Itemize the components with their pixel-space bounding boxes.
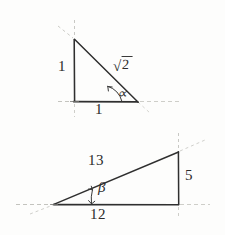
label-513-angle-beta: β xyxy=(98,179,105,196)
hypotenuse-extension-upper xyxy=(138,102,150,113)
label-513-hypotenuse: 13 xyxy=(88,152,104,169)
construction-line-diagonal-topleft xyxy=(58,26,73,38)
angle-arc-beta xyxy=(89,186,95,204)
label-unit-angle-alpha: ∝ xyxy=(117,85,127,102)
label-unit-vertical-leg: 1 xyxy=(58,58,66,75)
label-513-vertical-leg: 5 xyxy=(185,167,193,184)
hypotenuse-extension-lower xyxy=(180,140,205,151)
label-unit-horizontal-leg: 1 xyxy=(95,101,103,118)
label-unit-hypotenuse: √2 xyxy=(113,56,132,74)
triangle-5-12-13-hypotenuse xyxy=(54,152,179,204)
geometry-drawing xyxy=(0,0,225,235)
label-513-horizontal-leg: 12 xyxy=(90,206,106,223)
sketch-canvas: 1 1 √2 ∝ 13 5 12 β xyxy=(0,0,225,235)
construction-line-diagonal-bottomleft xyxy=(30,205,53,214)
label-unit-hypotenuse-radicand: 2 xyxy=(121,56,133,73)
